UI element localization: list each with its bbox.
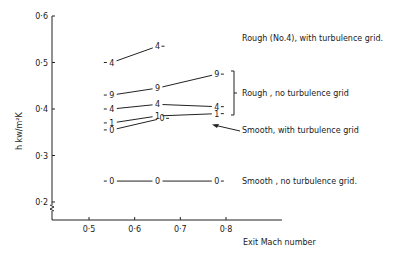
y-tick-label: 0·6 [35,12,48,21]
data-point-marker: 9 [155,84,160,93]
data-point-marker: 9 [214,70,219,79]
x-tick-label: 0·8 [220,225,233,234]
data-point-marker: 4 [155,100,160,109]
annotation-rough-no-grid: Rough , no turbulence grid [242,89,349,98]
x-tick-label: 0·5 [83,225,96,234]
data-point-marker: 0 [214,177,219,186]
series-line-segment [117,105,153,109]
data-point-marker: 0 [160,114,165,123]
y-tick-label: 0·5 [35,59,48,68]
data-point-marker: 1 [214,110,219,119]
arrow-head [212,124,219,128]
series-line-segment [117,89,153,94]
series-0: 44 [104,42,165,67]
annotation-smooth-no-grid: Smooth , no turbulence grid. [242,177,357,186]
x-axis-label: Exit Mach number [243,238,316,247]
series-1: 999 [104,70,224,100]
data-point-marker: 4 [109,105,114,114]
chart: 0·20·30·40·50·60·50·60·70·8Exit Mach num… [0,0,393,257]
data-point-marker: 0 [155,177,160,186]
series-2: 444 [104,100,224,114]
data-point-marker: 4 [155,42,160,51]
y-tick-label: 0·4 [35,105,48,114]
x-tick-label: 0·6 [128,225,141,234]
data-point-marker: 0 [109,126,114,135]
series-line-segment [162,114,211,116]
annotation-smooth-with-grid: Smooth, with turbulence grid [242,126,359,135]
data-point-marker: 0 [109,177,114,186]
x-tick-label: 0·7 [174,225,187,234]
series-group: 4499944411100000 [104,42,224,186]
data-point-marker: 9 [109,91,114,100]
series-5: 000 [104,177,224,186]
y-axis-label: h kw/m²K [15,112,24,150]
y-tick-label: 0·2 [35,198,48,207]
annotations: Rough (No.4), with turbulence grid.Rough… [212,34,383,186]
bracket [231,71,234,115]
annotation-rough-with-grid: Rough (No.4), with turbulence grid. [242,34,383,43]
y-tick-label: 0·3 [35,152,48,161]
series-line-segment [117,48,153,61]
data-point-marker: 4 [109,59,114,68]
series-line-segment [162,105,211,107]
y-axis-break [50,205,54,211]
series-line-segment [162,75,212,87]
